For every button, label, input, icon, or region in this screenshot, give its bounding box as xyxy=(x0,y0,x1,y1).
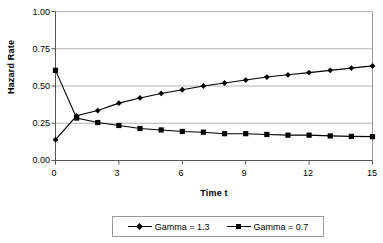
plot-area xyxy=(0,0,383,243)
hazard-rate-chart: Hazard Rate 1.00 0.75 0.50 0.25 0.00 0 3… xyxy=(0,0,383,243)
series-lines xyxy=(53,63,376,143)
gridlines xyxy=(56,12,373,161)
series-1 xyxy=(53,63,376,143)
legend-label-gamma-0-7: Gamma = 0.7 xyxy=(254,222,309,232)
legend-label-gamma-1-3: Gamma = 1.3 xyxy=(155,222,210,232)
series-2 xyxy=(53,68,375,140)
legend-entry-gamma-0-7: Gamma = 0.7 xyxy=(227,222,309,232)
legend-diamond-marker-icon xyxy=(128,222,152,231)
legend-square-marker-icon xyxy=(227,222,251,231)
chart-legend: Gamma = 1.3 Gamma = 0.7 xyxy=(112,216,324,237)
x-axis-title: Time t xyxy=(55,188,373,198)
x-axis-ticks xyxy=(56,161,373,165)
legend-entry-gamma-1-3: Gamma = 1.3 xyxy=(128,222,210,232)
